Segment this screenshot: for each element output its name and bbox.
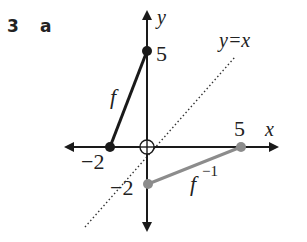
line-y-equals-x-label: y=x xyxy=(217,29,250,52)
x-axis-label: x xyxy=(264,118,274,140)
tick-label-y-neg2: −2 xyxy=(110,175,133,200)
f-inverse-exponent: −1 xyxy=(202,163,218,179)
f-point-0-5 xyxy=(142,46,152,56)
f-inverse-label: f xyxy=(190,171,199,196)
graph: y x 5 5 −2 −2 f f −1 y=x xyxy=(0,0,307,242)
finv-point-5-0 xyxy=(236,142,246,152)
y-axis-label: y xyxy=(155,6,166,29)
tick-label-x-5: 5 xyxy=(234,116,245,141)
tick-label-x-neg2: −2 xyxy=(81,149,104,174)
f-point-neg2-0 xyxy=(105,142,115,152)
finv-point-0-neg2 xyxy=(143,179,153,189)
line-y-equals-x xyxy=(85,57,235,227)
tick-label-y-5: 5 xyxy=(156,41,167,66)
f-label: f xyxy=(110,84,119,109)
